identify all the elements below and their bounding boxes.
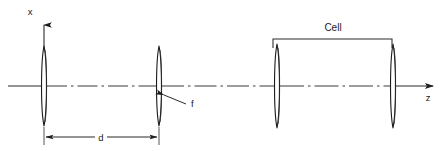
x-axis-label: x [28, 6, 33, 17]
lens-f [157, 46, 162, 126]
focal-length-annotation: f [164, 95, 194, 109]
z-axis-label: z [426, 92, 431, 103]
focal-length-label: f [191, 98, 194, 109]
cell-window-right [391, 44, 396, 128]
cell-bracket-group: Cell [273, 22, 392, 48]
cell-bracket [273, 39, 392, 48]
mirror-left [42, 46, 47, 126]
cell-window-left [275, 44, 280, 128]
distance-label: d [98, 132, 103, 143]
distance-dimension-group: d [44, 127, 159, 145]
diagram-canvas: x [0, 0, 445, 151]
focal-length-leader [164, 95, 186, 104]
cell-label: Cell [324, 22, 341, 33]
optics-diagram-figure: x [0, 0, 445, 151]
